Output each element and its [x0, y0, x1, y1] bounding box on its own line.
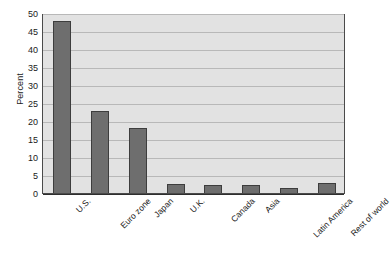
y-axis-tick-label: 20 — [18, 118, 38, 127]
x-axis-tick-label-group: U.S.Euro zoneJapanU.K.CanadaAsiaLatin Am… — [42, 196, 345, 265]
y-axis-tick-label: 5 — [18, 172, 38, 181]
x-axis-tick-label: Asia — [263, 196, 282, 215]
bar — [318, 183, 336, 193]
y-axis-tick-label: 40 — [18, 46, 38, 55]
bar — [280, 188, 298, 193]
x-axis-tick-label: Japan — [151, 196, 174, 219]
y-axis-tick-label: 45 — [18, 28, 38, 37]
y-axis-tick-label: 35 — [18, 64, 38, 73]
x-axis-tick-label: Latin America — [311, 196, 354, 239]
bar — [167, 184, 185, 193]
plot-area — [42, 14, 345, 194]
y-axis-tick-label: 30 — [18, 82, 38, 91]
y-axis-tick-label: 50 — [18, 10, 38, 19]
x-axis-tick-label: U.K. — [187, 196, 206, 215]
bar — [242, 185, 260, 193]
y-axis-tick-label: 15 — [18, 136, 38, 145]
bar — [91, 111, 109, 193]
y-axis-tick-label-group: 05101520253035404550 — [18, 14, 38, 194]
y-axis-tick-label: 25 — [18, 100, 38, 109]
x-axis-tick-label: U.S. — [74, 196, 93, 215]
y-axis-tick-label: 0 — [18, 190, 38, 199]
y-axis-tick-label: 10 — [18, 154, 38, 163]
bar — [204, 185, 222, 193]
x-axis-tick-label: Canada — [229, 196, 257, 224]
gridline — [43, 194, 344, 195]
bar — [129, 128, 147, 193]
bar-group — [43, 15, 344, 193]
x-axis-tick-label: Euro zone — [118, 196, 152, 230]
bar — [53, 21, 71, 193]
